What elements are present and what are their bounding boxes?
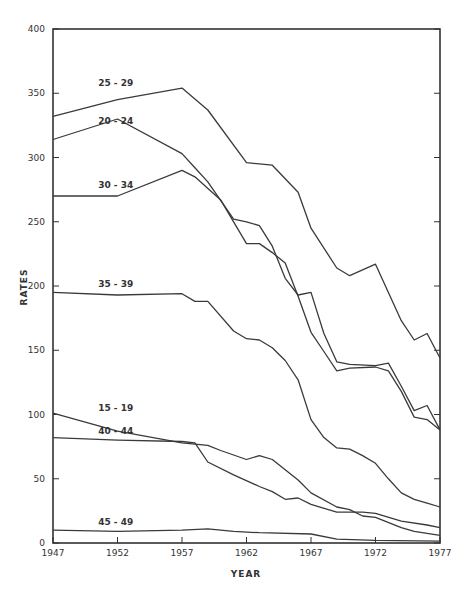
- y-tick-label: 50: [34, 474, 46, 484]
- series-label: 25 - 29: [98, 78, 133, 88]
- y-tick-label: 400: [28, 24, 45, 34]
- y-tick-label: 300: [28, 153, 45, 163]
- x-tick-label: 1977: [429, 548, 452, 558]
- series-label: 40 - 44: [98, 426, 133, 436]
- x-tick-label: 1957: [171, 548, 194, 558]
- series-label: 15 - 19: [98, 403, 133, 413]
- series-label: 20 - 24: [98, 116, 133, 126]
- y-tick-label: 350: [28, 88, 45, 98]
- y-axis-title: RATES: [19, 269, 29, 306]
- series-label: 35 - 39: [98, 279, 133, 289]
- series-labels: 25 - 2920 - 2430 - 3435 - 3915 - 1940 - …: [98, 78, 133, 527]
- series-line-20-24: [53, 119, 440, 430]
- series-label: 45 - 49: [98, 517, 133, 527]
- y-tick-label: 250: [28, 217, 45, 227]
- x-axis-title: YEAR: [230, 569, 262, 579]
- y-tick-label: 100: [28, 410, 45, 420]
- series-label: 30 - 34: [98, 180, 133, 190]
- series-line-30-34: [53, 170, 440, 430]
- series-line-40-44: [53, 438, 440, 528]
- x-tick-label: 1952: [106, 548, 129, 558]
- fertility-rates-chart: 050100150200250300350400 194719521957196…: [0, 0, 469, 597]
- series-line-25-29: [53, 88, 440, 358]
- y-tick-label: 0: [39, 538, 45, 548]
- x-tick-label: 1967: [300, 548, 323, 558]
- x-tick-label: 1972: [364, 548, 387, 558]
- y-tick-label: 200: [28, 281, 45, 291]
- y-axis-ticks: 050100150200250300350400: [28, 24, 440, 548]
- y-tick-label: 150: [28, 345, 45, 355]
- x-tick-label: 1962: [235, 548, 258, 558]
- series-lines: [53, 88, 440, 541]
- x-tick-label: 1947: [42, 548, 65, 558]
- series-line-35-39: [53, 292, 440, 507]
